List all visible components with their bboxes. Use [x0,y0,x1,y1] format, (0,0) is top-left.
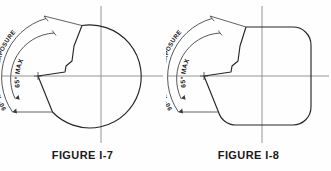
inner-arc-arrowhead [181,95,186,100]
outer-arc-arrowhead [13,109,18,114]
inner-arc-arrowhead [15,95,20,100]
inner-angle-label: 65° MAX [179,57,190,88]
figure-i-7: 90° MAXIMUM EXPOSURE 65° MAX FIGURE I-7 [0,0,165,171]
figure-caption: FIGURE I-8 [166,148,331,162]
extension-line-upper [210,16,246,27]
drawing-sheet: 90° MAXIMUM EXPOSURE 65° MAX FIGURE I-7 [0,0,331,171]
hub-center-marker [34,72,42,80]
hub-center-marker [200,72,208,80]
figure-i-8-drawing: 90° MAXIMUM EXPOSURE 65° MAX [166,0,331,148]
extension-line-upper [44,16,82,26]
figure-i-8: 90° MAXIMUM EXPOSURE 65° MAX FIGURE I-8 [166,0,331,171]
inner-angle-label: 65° MAX [13,57,24,88]
figure-caption: FIGURE I-7 [0,148,165,162]
figure-i-7-drawing: 90° MAXIMUM EXPOSURE 65° MAX [0,0,165,148]
outer-arc-arrowhead [179,109,184,114]
